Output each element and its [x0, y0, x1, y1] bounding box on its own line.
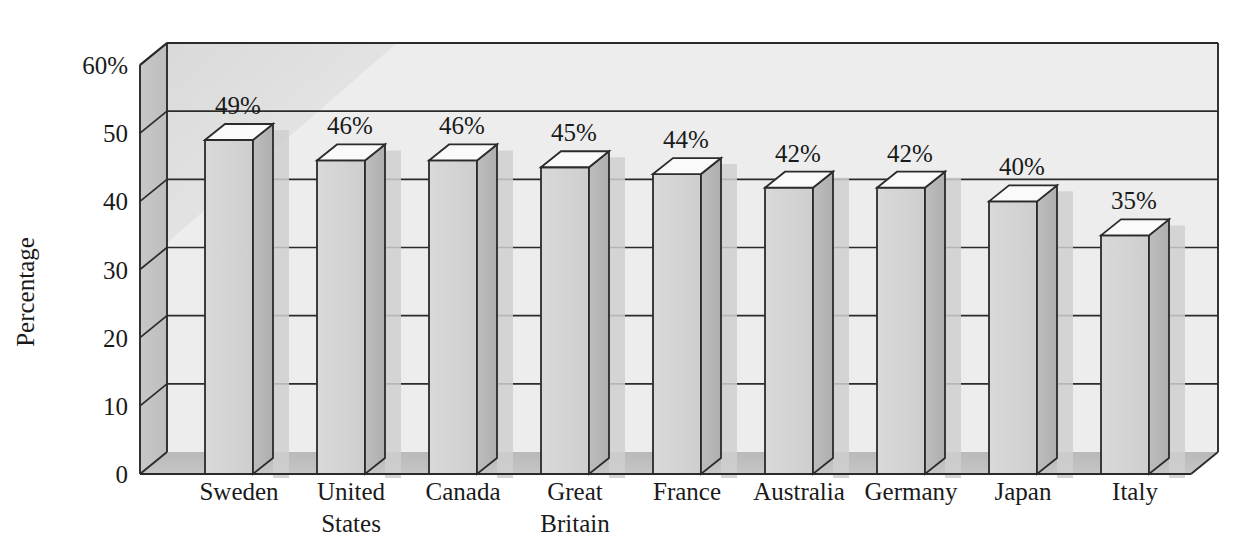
- bar-italy: [1101, 219, 1169, 474]
- y-axis-tick-label: 10: [103, 393, 128, 420]
- bar-front-face: [317, 160, 365, 474]
- bar-great-britain: [541, 151, 609, 474]
- bar-sweden: [205, 124, 273, 474]
- bar-shadow: [385, 150, 401, 478]
- x-axis-label: Canada: [426, 478, 501, 505]
- bar-value-label: 44%: [663, 126, 709, 153]
- y-axis-tick-labels: 0102030405060%: [82, 52, 128, 488]
- bar-front-face: [877, 188, 925, 474]
- bar-front-face: [1101, 235, 1149, 474]
- bar-shadow: [1169, 225, 1185, 478]
- bar-side-face: [1149, 219, 1169, 474]
- bar-chart-figure: 0102030405060% SwedenUnitedStatesCanadaG…: [0, 0, 1250, 551]
- bar-value-label: 45%: [551, 119, 597, 146]
- bar-front-face: [989, 201, 1037, 474]
- x-axis-label: Australia: [753, 478, 845, 505]
- x-axis-label: Germany: [864, 478, 958, 505]
- x-axis-label: States: [321, 510, 381, 537]
- bar-germany: [877, 172, 945, 474]
- bar-value-label: 42%: [887, 140, 933, 167]
- x-axis-category-labels: SwedenUnitedStatesCanadaGreatBritainFran…: [199, 478, 1158, 537]
- bar-side-face: [1037, 185, 1057, 474]
- y-axis-tick-label: 20: [103, 325, 128, 352]
- bar-value-label: 35%: [1111, 187, 1157, 214]
- bar-shadow: [609, 157, 625, 478]
- bar-united-states: [317, 144, 385, 474]
- bar-france: [653, 158, 721, 474]
- bar-front-face: [541, 167, 589, 474]
- bar-shadow: [273, 130, 289, 478]
- y-axis-tick-label: 40: [103, 188, 128, 215]
- x-axis-label: United: [317, 478, 386, 505]
- bar-shadow: [1057, 191, 1073, 478]
- bar-value-label: 46%: [439, 112, 485, 139]
- bar-side-face: [589, 151, 609, 474]
- x-axis-label: Italy: [1112, 478, 1158, 505]
- chart-page: 0102030405060% SwedenUnitedStatesCanadaG…: [0, 0, 1250, 551]
- bar-front-face: [765, 188, 813, 474]
- y-axis-title-text: Percentage: [12, 237, 39, 347]
- bar-side-face: [253, 124, 273, 474]
- bar-side-face: [813, 172, 833, 474]
- bar-front-face: [205, 140, 253, 474]
- bar-shadow: [497, 150, 513, 478]
- x-axis-label: France: [653, 478, 721, 505]
- x-axis-label: Britain: [540, 510, 610, 537]
- x-axis-label: Sweden: [199, 478, 279, 505]
- bar-front-face: [429, 160, 477, 474]
- bar-value-label: 49%: [215, 92, 261, 119]
- bar-japan: [989, 185, 1057, 474]
- y-axis-tick-label: 30: [103, 257, 128, 284]
- x-axis-label: Great: [547, 478, 603, 505]
- bar-front-face: [653, 174, 701, 474]
- y-axis-title: Percentage: [12, 237, 39, 347]
- bar-side-face: [701, 158, 721, 474]
- bar-canada: [429, 144, 497, 474]
- bar-australia: [765, 172, 833, 474]
- bar-shadow: [945, 178, 961, 478]
- bar-value-label: 42%: [775, 140, 821, 167]
- bar-value-label: 40%: [999, 153, 1045, 180]
- bar-side-face: [365, 144, 385, 474]
- bar-value-label: 46%: [327, 112, 373, 139]
- bar-shadow: [721, 164, 737, 478]
- y-axis-tick-label: 60%: [82, 52, 128, 79]
- y-axis-tick-label: 0: [116, 461, 129, 488]
- bar-side-face: [925, 172, 945, 474]
- bar-side-face: [477, 144, 497, 474]
- x-axis-label: Japan: [995, 478, 1052, 505]
- y-axis-tick-label: 50: [103, 120, 128, 147]
- bar-shadow: [833, 178, 849, 478]
